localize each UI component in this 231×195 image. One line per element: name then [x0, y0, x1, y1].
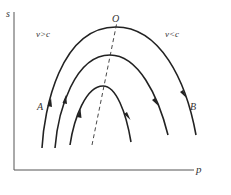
x-axis-label: p — [195, 163, 202, 175]
curve-label-a: A — [36, 101, 44, 112]
region-label-left: v>c — [36, 29, 50, 39]
curve-label-b: B — [190, 101, 196, 112]
phase-diagram: s p O v>c v<c A B — [0, 0, 231, 195]
outer-curve — [42, 27, 196, 148]
peak-label-o: O — [112, 13, 119, 24]
dashed-locus-line — [92, 22, 117, 145]
diagram-canvas: s p O v>c v<c A B — [0, 0, 231, 195]
region-label-right: v<c — [165, 29, 179, 39]
y-axis-label: s — [6, 8, 10, 19]
